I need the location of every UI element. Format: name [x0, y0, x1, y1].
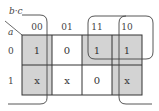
group-loop-column-10 [119, 16, 152, 104]
group-loop-row0-11-10 [88, 16, 153, 59]
grid-and-groups [0, 0, 159, 111]
grid-lines [22, 35, 142, 95]
karnaugh-map: b·c a 00 01 11 10 0 1 1 0 1 1 x x 0 x [0, 0, 159, 111]
header-diagonal-line [5, 21, 22, 35]
